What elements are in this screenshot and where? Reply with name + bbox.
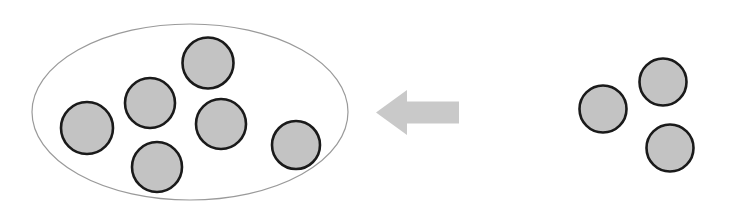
inner-circle-6 [272, 121, 320, 169]
outer-circle-2 [640, 59, 687, 106]
diagram-svg [0, 0, 747, 207]
inner-circle-3 [183, 38, 234, 89]
figure-canvas [0, 0, 747, 207]
inner-circle-2 [125, 78, 175, 128]
outer-circle-3 [647, 125, 694, 172]
inner-circle-5 [132, 142, 182, 192]
left-arrow-icon [376, 90, 459, 135]
inner-circle-1 [61, 102, 113, 154]
outer-circle-1 [580, 86, 627, 133]
inner-circle-4 [196, 99, 246, 149]
